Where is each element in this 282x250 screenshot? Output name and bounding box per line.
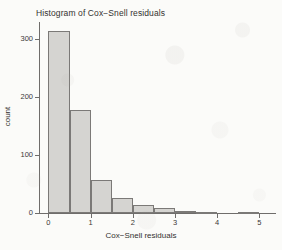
x-axis-tick-label: 1 [81, 219, 101, 227]
x-axis-tick-label: 2 [123, 219, 143, 227]
histogram-bar [48, 31, 69, 213]
y-axis-line [39, 22, 40, 214]
plot-area: 0100200300 012345 [0, 0, 282, 250]
histogram-bar [70, 110, 91, 213]
y-axis-tick-mark [35, 39, 39, 40]
histogram-bar [196, 212, 217, 214]
histogram-bar [91, 180, 112, 213]
x-axis-tick-label: 4 [207, 219, 227, 227]
histogram-bar [238, 212, 259, 214]
y-axis-tick-label: 100 [0, 151, 33, 159]
y-axis-tick-label: 300 [0, 35, 33, 43]
x-axis-title: Cox−Snell residuals [0, 231, 282, 240]
y-axis-tick-label: 0 [0, 209, 33, 217]
histogram-bar [175, 211, 196, 213]
y-axis-tick-mark [35, 155, 39, 156]
x-axis-tick-label: 5 [249, 219, 269, 227]
x-axis-tick-label: 0 [38, 219, 58, 227]
histogram-chart: Histogram of Cox−Snell residuals 0100200… [0, 0, 282, 250]
histogram-bar [154, 208, 175, 213]
y-axis-tick-mark [35, 213, 39, 214]
y-axis-tick-mark [35, 97, 39, 98]
histogram-bar [112, 198, 133, 213]
x-axis-tick-label: 3 [165, 219, 185, 227]
y-axis-title: count [3, 97, 12, 137]
histogram-bar [133, 205, 154, 213]
